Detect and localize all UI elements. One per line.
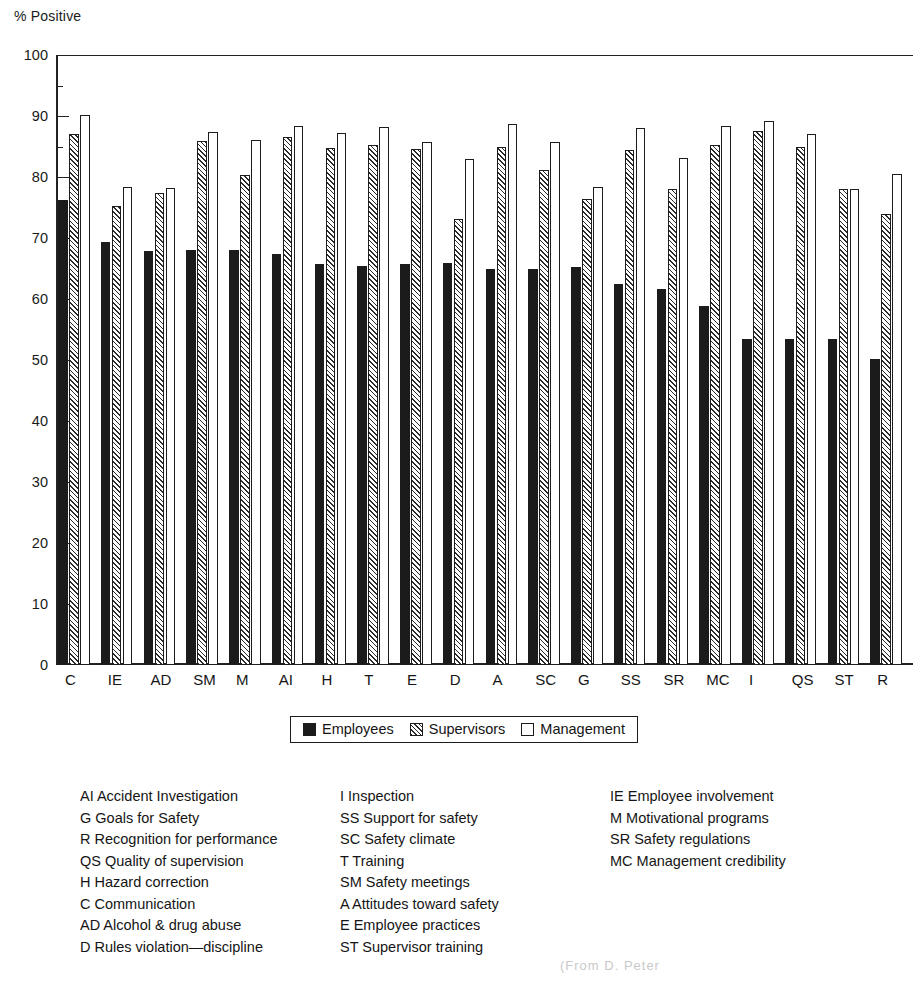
bar-employees-qs	[785, 339, 795, 665]
x-tick-label-i: I	[742, 671, 785, 697]
bar-group	[699, 55, 742, 665]
key-item: QS Quality of supervision	[80, 851, 277, 873]
y-tick-label: 60	[2, 291, 48, 307]
key-item: T Training	[340, 851, 499, 873]
bar-group	[571, 55, 614, 665]
key-item: AD Alcohol & drug abuse	[80, 915, 277, 937]
key-item: ST Supervisor training	[340, 937, 499, 959]
key-item: MC Management credibility	[610, 851, 786, 873]
bar-management-m	[251, 140, 261, 665]
bar-series-layer	[58, 55, 913, 665]
y-tick-label: 0	[2, 657, 48, 673]
y-tick-label: 100	[2, 47, 48, 63]
bar-group	[400, 55, 443, 665]
bar-management-t	[379, 127, 389, 665]
hatched-swatch	[410, 723, 423, 736]
x-tick-label-ai: AI	[272, 671, 315, 697]
bar-management-sc	[550, 142, 560, 665]
x-tick-label-mc: MC	[699, 671, 742, 697]
bar-supervisors-sr	[668, 189, 678, 665]
x-tick-label-ad: AD	[144, 671, 187, 697]
bar-supervisors-d	[454, 219, 464, 665]
solid-black-swatch	[303, 723, 316, 736]
key-item: M Motivational programs	[610, 808, 786, 830]
bar-group	[272, 55, 315, 665]
bar-supervisors-a	[497, 147, 507, 665]
bar-group	[614, 55, 657, 665]
bar-group	[58, 55, 101, 665]
y-tick-label: 70	[2, 230, 48, 246]
bar-group	[315, 55, 358, 665]
bar-group	[528, 55, 571, 665]
x-tick-label-sc: SC	[528, 671, 571, 697]
bar-group	[229, 55, 272, 665]
bar-employees-ss	[614, 284, 624, 665]
bar-management-r	[892, 174, 902, 665]
bar-supervisors-e	[411, 149, 421, 665]
bar-management-ss	[636, 128, 646, 665]
key-column-1: AI Accident InvestigationG Goals for Saf…	[80, 786, 277, 958]
bar-employees-a	[486, 269, 496, 665]
bar-group	[657, 55, 700, 665]
bar-supervisors-r	[881, 214, 891, 665]
bar-group	[144, 55, 187, 665]
x-tick-label-a: A	[486, 671, 529, 697]
bar-management-g	[593, 187, 603, 665]
chart-legend: EmployeesSupervisorsManagement	[290, 716, 638, 743]
key-item: SR Safety regulations	[610, 829, 786, 851]
y-tick-label: 90	[2, 108, 48, 124]
bar-management-ai	[294, 126, 304, 665]
bar-employees-sc	[528, 269, 538, 666]
bar-employees-sr	[657, 289, 667, 665]
key-item: I Inspection	[340, 786, 499, 808]
bar-management-h	[337, 133, 347, 665]
x-tick-label-sm: SM	[186, 671, 229, 697]
bar-employees-r	[870, 359, 880, 665]
y-axis-title: % Positive	[14, 8, 81, 24]
bar-management-a	[508, 124, 518, 665]
y-tick-label: 20	[2, 535, 48, 551]
key-item: H Hazard correction	[80, 872, 277, 894]
bar-supervisors-sc	[539, 170, 549, 665]
bar-employees-c	[58, 200, 68, 665]
key-item: C Communication	[80, 894, 277, 916]
bar-supervisors-c	[69, 134, 79, 665]
bar-supervisors-st	[839, 189, 849, 665]
bar-management-st	[850, 189, 860, 665]
abbreviation-key: AI Accident InvestigationG Goals for Saf…	[0, 786, 913, 951]
key-item: A Attitudes toward safety	[340, 894, 499, 916]
x-tick-label-c: C	[58, 671, 101, 697]
bar-employees-e	[400, 264, 410, 665]
bar-employees-g	[571, 267, 581, 665]
bar-employees-ai	[272, 254, 282, 665]
x-tick-label-r: R	[870, 671, 913, 697]
key-item: R Recognition for performance	[80, 829, 277, 851]
bar-group	[443, 55, 486, 665]
key-item: SC Safety climate	[340, 829, 499, 851]
x-tick-label-e: E	[400, 671, 443, 697]
y-tick-label: 30	[2, 474, 48, 490]
bar-management-sm	[208, 132, 218, 665]
x-axis-tick-labels: CIEADSMMAIHTEDASCGSSSRMCIQSSTR	[58, 671, 913, 697]
bar-employees-ie	[101, 242, 111, 665]
x-tick-label-m: M	[229, 671, 272, 697]
bar-group	[357, 55, 400, 665]
x-tick-label-h: H	[315, 671, 358, 697]
legend-label: Employees	[322, 721, 394, 737]
legend-label: Supervisors	[429, 721, 506, 737]
bar-supervisors-qs	[796, 147, 806, 665]
bar-supervisors-i	[753, 131, 763, 665]
bar-group	[186, 55, 229, 665]
x-tick-label-t: T	[357, 671, 400, 697]
bar-employees-i	[742, 339, 752, 665]
bar-supervisors-mc	[710, 145, 720, 665]
bar-employees-st	[828, 339, 838, 665]
key-item: D Rules violation—discipline	[80, 937, 277, 959]
x-tick-label-sr: SR	[657, 671, 700, 697]
bar-supervisors-h	[326, 148, 336, 665]
bar-group	[785, 55, 828, 665]
bar-supervisors-sm	[197, 141, 207, 665]
x-tick-label-qs: QS	[785, 671, 828, 697]
bar-management-mc	[721, 126, 731, 665]
bar-group	[742, 55, 785, 665]
